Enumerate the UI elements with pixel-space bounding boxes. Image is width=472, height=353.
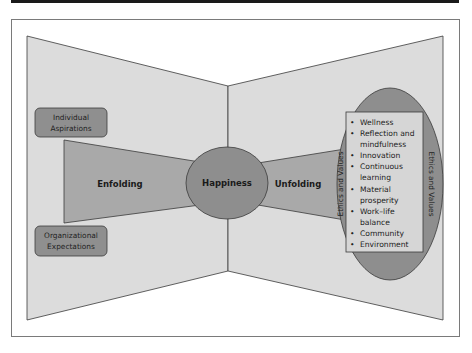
list-bullet: • xyxy=(350,129,354,138)
list-item-continuous-cont: learning xyxy=(360,173,391,182)
list-item-material-cont: prosperity xyxy=(360,196,399,205)
list-bullet: • xyxy=(350,240,354,249)
list-bullet: • xyxy=(350,118,354,127)
individual-aspirations-line2: Aspirations xyxy=(50,124,91,133)
list-item-reflection: Reflection and xyxy=(360,129,415,138)
happiness-diagram: Enfolding Unfolding Happiness Ethics and… xyxy=(0,0,472,353)
list-bullet: • xyxy=(350,207,354,216)
organizational-expectations-line1: Organizational xyxy=(44,231,98,240)
ethics-values-left-label: Ethics and Values xyxy=(336,151,345,216)
list-item-wellness: Wellness xyxy=(360,118,393,127)
list-item-innovation: Innovation xyxy=(360,151,400,160)
list-bullet: • xyxy=(350,151,354,160)
list-item-worklife-cont: balance xyxy=(360,218,390,227)
list-item-material: Material xyxy=(360,185,391,194)
unfolding-label: Unfolding xyxy=(275,179,322,189)
list-item-worklife: Work–life xyxy=(360,207,395,216)
list-bullet: • xyxy=(350,185,354,194)
organizational-expectations-line2: Expectations xyxy=(47,242,95,251)
enfolding-label: Enfolding xyxy=(97,179,142,189)
ethics-values-right-label: Ethics and Values xyxy=(427,152,436,217)
list-item-environment: Environment xyxy=(360,240,409,249)
happiness-label: Happiness xyxy=(202,178,252,188)
list-item-continuous: Continuous xyxy=(360,162,403,171)
list-item-community: Community xyxy=(360,229,404,238)
list-bullet: • xyxy=(350,162,354,171)
list-item-reflection-cont: mindfulness xyxy=(360,140,406,149)
list-bullet: • xyxy=(350,229,354,238)
individual-aspirations-line1: Individual xyxy=(53,113,89,122)
